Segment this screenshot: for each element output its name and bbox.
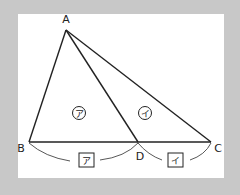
- svg-text:イ: イ: [141, 109, 150, 119]
- point-label-a: A: [62, 13, 70, 26]
- segment-ad: [66, 30, 138, 142]
- base-label-bd: ア: [79, 153, 94, 167]
- brace-dc-right: [190, 143, 211, 160]
- base-label-dc: イ: [168, 153, 183, 167]
- brace-bd-right: [100, 143, 138, 160]
- svg-text:イ: イ: [171, 156, 180, 166]
- point-label-b: B: [17, 142, 25, 155]
- point-label-c: C: [214, 142, 222, 155]
- segment-ac: [66, 30, 211, 142]
- region-label-left: ア: [73, 107, 86, 120]
- region-label-right: イ: [139, 107, 152, 120]
- svg-text:ア: ア: [75, 109, 84, 119]
- svg-text:ア: ア: [82, 156, 91, 166]
- segment-ab: [29, 30, 66, 142]
- triangle-diagram: A B D C ア イ ア イ: [0, 0, 240, 195]
- point-label-d: D: [136, 150, 144, 163]
- brace-bd-left: [29, 143, 70, 161]
